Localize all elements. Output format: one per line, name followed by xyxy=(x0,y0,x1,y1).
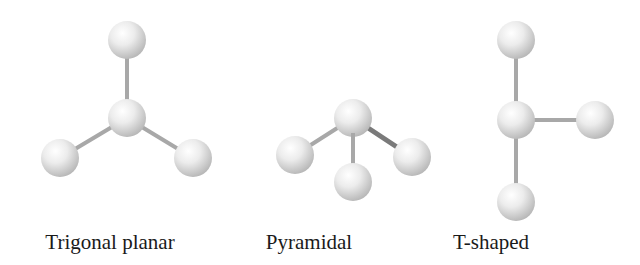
atom-top xyxy=(108,21,146,59)
pyramidal-model xyxy=(276,99,431,201)
atom-bottom xyxy=(497,183,535,221)
atom-central xyxy=(108,99,146,137)
atom-left xyxy=(276,136,314,174)
atom-central xyxy=(334,99,372,137)
label-t-shaped: T-shaped xyxy=(453,230,529,255)
molecular-geometry-figure xyxy=(0,0,640,265)
label-trigonal-planar: Trigonal planar xyxy=(45,230,174,255)
atom-central xyxy=(497,101,535,139)
atom-right xyxy=(174,139,212,177)
atom-right xyxy=(393,138,431,176)
atom-top xyxy=(497,21,535,59)
t-shaped-model xyxy=(497,21,614,221)
label-pyramidal: Pyramidal xyxy=(266,230,352,255)
atom-right xyxy=(576,101,614,139)
atom-left xyxy=(41,139,79,177)
atom-bottom xyxy=(334,163,372,201)
trigonal-planar-model xyxy=(41,21,212,177)
